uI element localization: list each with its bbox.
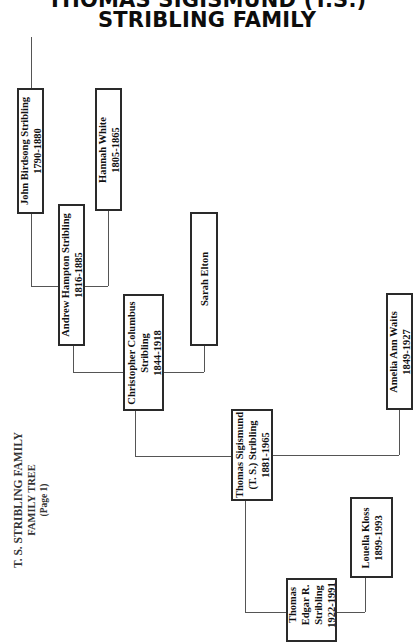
person-dates: 1805-1865	[109, 116, 122, 182]
person-name: John Birdsong Stribling	[18, 97, 31, 205]
person-christopher-columbus-stribling: Christopher Columbus Stribling 1844-1918	[123, 294, 164, 411]
person-amelia-ann-waits: Amelia Ann Waits 1849-1927	[386, 293, 413, 410]
connector-andrew-down	[73, 345, 74, 372]
family-tree-label-line-3: (Page 1)	[38, 432, 50, 568]
person-thomas-sigismund-stribling: Thomas Sigismund (T. S.) Stribling 1881-…	[231, 409, 273, 501]
person-name: Thomas	[286, 582, 299, 628]
connector-amelia-down	[399, 409, 400, 455]
connector-christopher-to-ts	[135, 456, 231, 457]
person-dates: 1790-1880	[31, 97, 44, 205]
person-dates: 1899-1993	[372, 507, 385, 568]
person-name-2: Edgar R.	[299, 582, 312, 628]
person-dates: 1849-1927	[400, 311, 413, 393]
connector-hannah-down	[108, 210, 109, 286]
connector-sarah-down	[204, 345, 205, 372]
connector-john-top	[31, 37, 32, 88]
person-name-2: (T. S.) Stribling	[246, 412, 259, 498]
person-hannah-white: Hannah White 1805-1865	[95, 88, 122, 211]
connector-louella-down	[365, 577, 366, 612]
connector-john-down	[31, 213, 32, 286]
person-dates: 1922-1991	[325, 582, 338, 628]
family-tree-label-line-1: T. S. STRIBLING FAMILY	[11, 432, 25, 568]
person-louella-kloss: Louella Kloss 1899-1993	[350, 497, 393, 578]
person-sarah-elton: Sarah Elton	[190, 212, 218, 346]
connector-ts-down	[245, 500, 246, 612]
connector-amelia-to-ts	[272, 455, 399, 456]
person-dates: 1816-1885	[72, 213, 85, 337]
person-dates: 1844-1918	[150, 301, 163, 404]
person-name: Hannah White	[96, 116, 109, 182]
connector-ts-to-thomas-edgar	[245, 612, 286, 613]
family-tree-label: T. S. STRIBLING FAMILY FAMILY TREE (Page…	[11, 432, 50, 568]
person-name: Christopher Columbus	[124, 301, 137, 404]
title-line-2: STRIBLING FAMILY	[0, 8, 414, 32]
person-thomas-edgar-stribling: Thomas Edgar R. Stribling 1922-1991	[286, 578, 337, 642]
connector-louella-to-thomas-edgar	[336, 612, 365, 613]
person-name-2: Stribling	[137, 301, 150, 404]
person-john-birdsong-stribling: John Birdsong Stribling 1790-1880	[17, 88, 44, 214]
person-name: Andrew Hampton Stribling	[59, 213, 72, 337]
connector-andrew-to-christopher	[73, 372, 123, 373]
connector-hannah-to-andrew	[84, 286, 108, 287]
family-tree-label-line-2: FAMILY TREE	[25, 432, 38, 568]
connector-christopher-down	[135, 410, 136, 456]
person-dates: 1881-1965	[259, 412, 272, 498]
connector-sarah-to-christopher	[163, 372, 204, 373]
person-name: Amelia Ann Waits	[387, 311, 400, 393]
connector-john-to-andrew	[31, 286, 58, 287]
person-andrew-hampton-stribling: Andrew Hampton Stribling 1816-1885	[58, 204, 85, 346]
person-name: Thomas Sigismund	[233, 412, 246, 498]
person-name-3: Stribling	[312, 582, 325, 628]
person-name: Louella Kloss	[359, 507, 372, 568]
person-name: Sarah Elton	[198, 252, 211, 306]
